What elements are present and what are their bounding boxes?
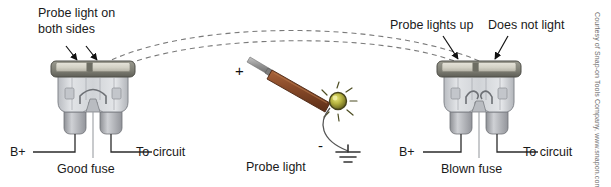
label-probe-light-both-sides-line1: Probe light on [38, 6, 115, 20]
label-good-fuse: Good fuse [57, 162, 115, 176]
label-blown-fuse: Blown fuse [441, 162, 502, 176]
label-probe-light-both-sides-line2: both sides [38, 22, 95, 36]
dashed-arc-group [96, 31, 494, 71]
label-probe-lights-up: Probe lights up [390, 18, 473, 32]
probe-light-tool [247, 57, 360, 162]
label-left-b-plus: B+ [10, 145, 26, 159]
left-fuse-good [33, 46, 152, 158]
probe-handle [267, 70, 330, 112]
left-fuse-cap [51, 61, 135, 77]
right-probe-arrows [443, 36, 508, 59]
left-probe-arrows [66, 46, 97, 60]
label-probe-light: Probe light [246, 160, 306, 174]
credit-text: Courtesy of Snap-on Tools Company, www.s… [593, 12, 601, 187]
label-left-to-circuit: To circuit [136, 145, 185, 159]
fuse-test-diagram: Probe light on both sides Probe lights u… [0, 0, 611, 187]
label-right-to-circuit: To circuit [523, 145, 572, 159]
dashed-arc-upper [96, 31, 494, 69]
right-fuse-cap [437, 61, 521, 77]
probe-bulb [330, 93, 347, 110]
label-does-not-light: Does not light [488, 18, 564, 32]
dashed-arc-lower [112, 41, 474, 70]
right-fuse-leads [423, 134, 538, 152]
label-negative-sign: - [318, 138, 323, 153]
label-right-b-plus: B+ [399, 145, 415, 159]
right-fuse-blown [423, 36, 538, 158]
label-positive-sign: + [235, 63, 244, 78]
